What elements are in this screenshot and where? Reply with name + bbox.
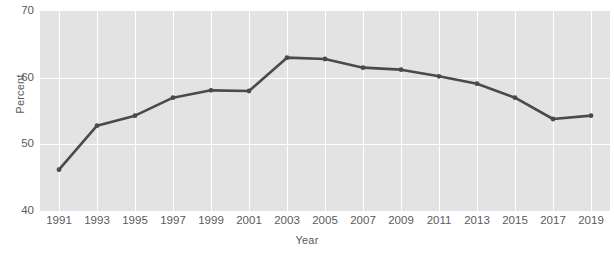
data-point-marker [57,167,62,172]
data-point-marker [551,117,556,122]
plot-area [40,11,610,211]
data-point-marker [133,113,138,118]
x-axis-title: Year [0,234,614,246]
line-chart: Percent 70605040 19911993199519971999200… [0,0,614,253]
data-point-marker [399,67,404,72]
data-point-marker [285,55,290,60]
data-point-marker [171,95,176,100]
y-tick-label: 50 [8,138,34,150]
data-point-marker [437,74,442,79]
x-tick-label: 2019 [569,215,613,227]
data-point-marker [95,123,100,128]
data-point-marker [247,89,252,94]
data-point-marker [209,88,214,93]
data-point-marker [475,81,480,86]
y-tick-label: 60 [8,72,34,84]
data-series-line [40,11,610,211]
data-point-marker [589,113,594,118]
y-axis-title: Percent [14,54,26,134]
y-tick-label: 40 [8,205,34,217]
data-point-marker [361,65,366,70]
data-point-marker [323,57,328,62]
y-tick-label: 70 [8,5,34,17]
data-point-marker [513,95,518,100]
series-path [59,58,591,170]
